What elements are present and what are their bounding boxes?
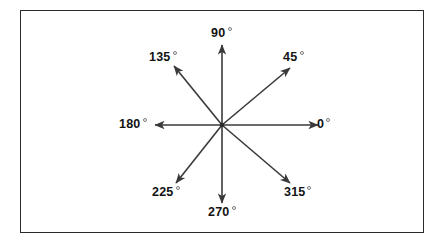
label-180-value: 180: [119, 118, 140, 131]
label-90: 90: [211, 27, 232, 40]
degree-symbol-icon: [173, 51, 177, 55]
degree-symbol-icon: [300, 51, 304, 55]
label-225-value: 225: [152, 186, 173, 199]
label-0-value: 0: [317, 118, 324, 131]
label-90-value: 90: [211, 27, 225, 40]
label-315-value: 315: [284, 186, 305, 199]
degree-symbol-icon: [307, 186, 311, 190]
label-315: 315: [284, 186, 311, 199]
center-point: [220, 123, 224, 127]
ray-315: [222, 125, 290, 183]
degree-symbol-icon: [228, 27, 232, 31]
degree-symbol-icon: [176, 186, 180, 190]
ray-135: [174, 66, 222, 125]
label-270-value: 270: [208, 206, 229, 219]
degree-symbol-icon: [232, 206, 236, 210]
figure-root: 90 135 45 180 0 225 315 270: [0, 0, 435, 246]
label-270: 270: [208, 206, 236, 219]
label-135-value: 135: [149, 51, 170, 64]
degree-symbol-icon: [143, 118, 147, 122]
label-0: 0: [317, 118, 330, 131]
label-45: 45: [283, 51, 304, 64]
label-180: 180: [119, 118, 147, 131]
figure-caption: [22, 238, 422, 246]
degree-symbol-icon: [326, 118, 330, 122]
label-135: 135: [149, 51, 177, 64]
label-45-value: 45: [283, 51, 297, 64]
ray-group: [155, 45, 318, 203]
label-225: 225: [152, 186, 180, 199]
ray-225: [176, 125, 222, 183]
ray-45: [222, 68, 290, 125]
